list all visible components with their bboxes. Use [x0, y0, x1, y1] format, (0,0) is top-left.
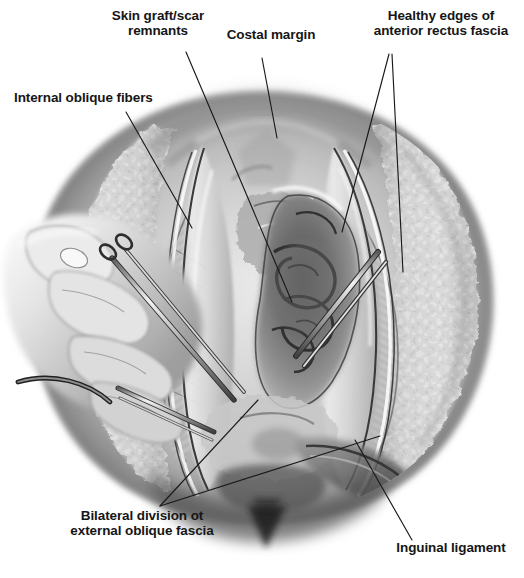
- label-internal-oblique-fibers: Internal oblique fibers: [14, 90, 204, 105]
- illustration-canvas: [0, 0, 524, 578]
- label-skin-graft-scar-remnants: Skin graft/scar remnants: [100, 8, 216, 38]
- label-costal-margin: Costal margin: [216, 27, 326, 42]
- label-bilateral-division-external-oblique-fascia: Bilateral division ot external oblique f…: [52, 508, 232, 538]
- label-healthy-edges-anterior-rectus-fascia: Healthy edges of anterior rectus fascia: [366, 8, 516, 38]
- surgical-illustration-figure: Skin graft/scar remnants Costal margin H…: [0, 0, 524, 578]
- label-inguinal-ligament: Inguinal ligament: [378, 540, 524, 555]
